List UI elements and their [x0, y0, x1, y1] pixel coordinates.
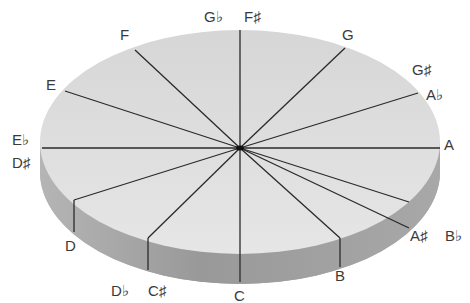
label-a-flat: A♭: [426, 87, 443, 102]
label-f-sharp: G♭: [204, 9, 223, 24]
label-d-flat: D♭: [111, 283, 129, 298]
label-e: E: [46, 77, 56, 92]
label-a: A: [444, 137, 454, 152]
label-g: G: [342, 27, 354, 42]
label-b-flat: B♭: [445, 228, 462, 243]
label-e-flat: E♭: [12, 132, 29, 147]
label-c-sharp: C♯: [148, 283, 166, 298]
label-f: F: [120, 27, 129, 42]
label-b: B: [335, 268, 345, 283]
label-g-flat: F♯: [244, 9, 261, 24]
label-d-sharp: D♯: [12, 155, 30, 170]
label-d: D: [65, 238, 76, 253]
label-c: C: [234, 288, 245, 303]
label-g-sharp: G♯: [412, 62, 431, 77]
label-a-sharp: A♯: [410, 228, 428, 243]
pitch-disc: [0, 0, 470, 303]
